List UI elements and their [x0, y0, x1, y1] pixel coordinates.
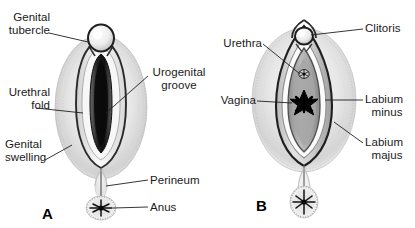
- panel-a-letter: A: [42, 205, 53, 222]
- label-genital-swelling-line2: swelling: [5, 151, 61, 164]
- label-anus: Anus: [150, 201, 176, 214]
- label-urethral-fold-line2: fold: [2, 99, 50, 112]
- label-urogenital-groove-line1: Urogenital: [153, 66, 206, 78]
- clitoris-shape: [295, 28, 313, 45]
- label-labium-minus-line1: Labium: [365, 93, 403, 105]
- panel-b-letter: B: [256, 197, 267, 214]
- label-genital-swelling: Genital swelling: [5, 138, 61, 164]
- label-perineum: Perineum: [150, 174, 200, 187]
- label-genital-swelling-line1: Genital: [5, 138, 42, 150]
- panel-a: Genital tubercle Urethral fold Genital s…: [0, 0, 208, 228]
- label-urogenital-groove: Urogenital groove: [150, 66, 208, 92]
- leader-anus: [113, 207, 148, 208]
- label-labium-minus: Labium minus: [365, 93, 415, 119]
- label-vagina: Vagina: [208, 94, 256, 107]
- label-genital-tubercle-line1: Genital: [13, 11, 50, 23]
- panel-b: Clitoris Urethra Vagina Labium minus Lab…: [208, 0, 415, 228]
- label-urethral-fold-line1: Urethral: [9, 86, 50, 98]
- leader-perineum: [106, 180, 148, 186]
- label-anus-text: Anus: [150, 201, 176, 213]
- label-labium-minus-line2: minus: [365, 106, 409, 119]
- label-labium-majus: Labium majus: [365, 136, 415, 162]
- label-genital-tubercle-line2: tubercle: [4, 24, 50, 37]
- label-labium-majus-line2: majus: [365, 149, 409, 162]
- label-urogenital-groove-line2: groove: [150, 79, 208, 92]
- urethral-orifice-shape: [299, 70, 309, 79]
- label-labium-majus-line1: Labium: [365, 136, 403, 148]
- label-clitoris: Clitoris: [365, 22, 401, 35]
- label-urethral-fold: Urethral fold: [2, 86, 50, 112]
- label-clitoris-text: Clitoris: [365, 22, 401, 34]
- label-perineum-text: Perineum: [150, 174, 200, 186]
- label-genital-tubercle: Genital tubercle: [4, 11, 50, 37]
- label-urethra: Urethra: [208, 37, 262, 50]
- label-urethra-text: Urethra: [223, 37, 262, 49]
- label-vagina-text: Vagina: [221, 94, 256, 106]
- anatomy-figure: Genital tubercle Urethral fold Genital s…: [0, 0, 415, 228]
